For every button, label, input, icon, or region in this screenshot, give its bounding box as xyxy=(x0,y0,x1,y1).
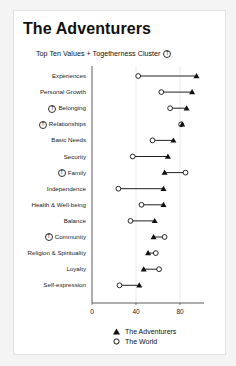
category-text: Religion & Spirituality xyxy=(28,249,86,256)
category-label: Health & Well-being xyxy=(31,201,86,208)
category-label: TRelationships xyxy=(38,120,86,128)
category-text: Experiences xyxy=(52,72,86,79)
category-text: Relationships xyxy=(49,120,86,127)
category-label: TFamily xyxy=(57,169,86,177)
category-text: Balance xyxy=(64,217,86,224)
category-label: Independence xyxy=(47,185,86,192)
world-marker xyxy=(117,283,122,288)
triangle-icon xyxy=(113,328,120,335)
world-marker xyxy=(183,170,188,175)
legend-label: The World xyxy=(125,338,157,345)
legend-label: The Adventurers xyxy=(125,328,176,335)
togetherness-icon: T xyxy=(39,121,47,129)
x-tick-label: 80 xyxy=(176,308,184,315)
category-label: Loyalty xyxy=(66,265,86,272)
world-marker xyxy=(168,106,173,111)
world-marker xyxy=(153,251,158,256)
x-tick-label: 40 xyxy=(132,308,140,315)
category-text: Basic Needs xyxy=(51,136,86,143)
world-marker xyxy=(139,202,144,207)
legend-item-adventurers: The Adventurers xyxy=(113,326,176,336)
category-text: Community xyxy=(55,233,86,240)
world-marker xyxy=(157,267,162,272)
category-label: Religion & Spirituality xyxy=(28,249,86,256)
world-marker xyxy=(130,154,135,159)
category-text: Health & Well-being xyxy=(31,201,86,208)
category-text: Loyalty xyxy=(66,265,86,272)
world-marker xyxy=(116,186,121,191)
legend: The Adventurers The World xyxy=(113,326,176,346)
togetherness-icon: T xyxy=(58,169,66,177)
x-tick-label: 0 xyxy=(90,308,94,315)
category-text: Self-expression xyxy=(43,281,86,288)
category-label: Self-expression xyxy=(43,281,86,288)
category-label: TBelonging xyxy=(47,104,86,112)
dumbbell-plot: 04080 xyxy=(0,0,236,366)
togetherness-icon: T xyxy=(48,105,56,113)
category-label: TCommunity xyxy=(44,233,86,241)
category-label: Personal Growth xyxy=(40,88,86,95)
world-marker xyxy=(128,219,133,224)
category-text: Personal Growth xyxy=(40,88,86,95)
togetherness-icon: T xyxy=(45,233,53,241)
category-label: Experiences xyxy=(52,72,86,79)
category-label: Security xyxy=(64,153,86,160)
circle-icon xyxy=(113,338,120,345)
world-marker xyxy=(136,74,141,79)
category-text: Security xyxy=(64,153,86,160)
world-marker xyxy=(159,90,164,95)
world-marker xyxy=(162,235,167,240)
category-label: Balance xyxy=(64,217,86,224)
category-text: Belonging xyxy=(58,104,86,111)
legend-item-world: The World xyxy=(113,336,176,346)
category-label: Basic Needs xyxy=(51,136,86,143)
category-text: Independence xyxy=(47,185,86,192)
world-marker xyxy=(150,138,155,143)
category-text: Family xyxy=(68,169,86,176)
